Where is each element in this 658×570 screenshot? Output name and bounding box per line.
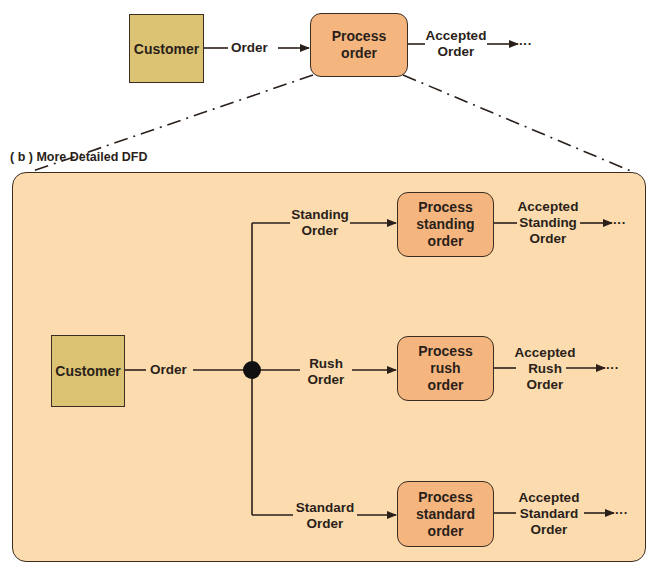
process-label-line3: order <box>428 523 464 540</box>
accepted-standard-order-label: Accepted Standard Order <box>514 490 584 538</box>
top-customer-label: Customer <box>134 41 199 57</box>
standing-order-flow-label: Standing Order <box>288 207 352 239</box>
process-label-line3: order <box>428 377 464 394</box>
top-continuation-ellipsis: ··· <box>519 36 532 52</box>
accepted-standing-order-label: Accepted Standing Order <box>515 199 581 247</box>
junction-dot <box>243 361 261 379</box>
connector-lines <box>0 0 658 570</box>
zoom-line-left <box>30 75 313 172</box>
top-process-order: Process order <box>310 13 408 77</box>
label-line3: Order <box>515 231 581 247</box>
process-label-line1: Process <box>418 199 472 216</box>
label-line1: Accepted <box>512 345 578 361</box>
process-standing-order: Process standing order <box>397 192 494 257</box>
label-line3: Order <box>514 522 584 538</box>
standing-continuation-ellipsis: ··· <box>613 215 626 231</box>
standard-order-flow-label: Standard Order <box>292 500 358 532</box>
label-line2: Order <box>300 372 352 388</box>
label-line2: Order <box>292 516 358 532</box>
label-line1: Accepted <box>425 28 487 44</box>
process-label-line3: order <box>428 233 464 250</box>
label-line1: Rush <box>300 356 352 372</box>
detail-customer-label: Customer <box>55 363 120 379</box>
label-line2: Standing <box>515 215 581 231</box>
rush-order-flow-label: Rush Order <box>300 356 352 388</box>
detail-customer-entity: Customer <box>51 335 125 407</box>
label-line2: Order <box>288 223 352 239</box>
process-label-line2: standard <box>416 506 475 523</box>
label-line1: Accepted <box>515 199 581 215</box>
top-order-flow-label: Order <box>231 40 268 56</box>
label-line1: Standing <box>288 207 352 223</box>
accepted-rush-order-label: Accepted Rush Order <box>512 345 578 393</box>
process-rush-order: Process rush order <box>397 336 494 401</box>
label-line2: Order <box>425 44 487 60</box>
process-label-line1: Process <box>418 343 472 360</box>
standard-continuation-ellipsis: ··· <box>615 505 628 521</box>
process-label-line1: Process <box>332 28 386 45</box>
label-line2: Rush <box>512 361 578 377</box>
process-label-line2: order <box>341 45 377 62</box>
label-line2: Standard <box>514 506 584 522</box>
top-customer-entity: Customer <box>129 14 204 83</box>
rush-continuation-ellipsis: ··· <box>606 360 619 376</box>
top-accepted-order-label: Accepted Order <box>425 28 487 60</box>
process-standard-order: Process standard order <box>397 481 494 547</box>
process-label-line2: rush <box>430 360 460 377</box>
label-line1: Accepted <box>514 490 584 506</box>
zoom-line-right <box>403 75 633 172</box>
process-label-line1: Process <box>418 489 472 506</box>
label-line3: Order <box>512 377 578 393</box>
label-line1: Standard <box>292 500 358 516</box>
detail-order-flow-label: Order <box>150 362 187 378</box>
process-label-line2: standing <box>416 216 474 233</box>
